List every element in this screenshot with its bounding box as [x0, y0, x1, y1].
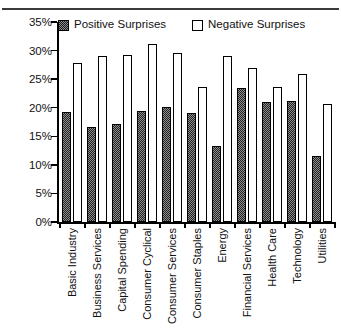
- x-axis-category-label: Basic Industry: [66, 228, 77, 297]
- y-axis-tick: [51, 21, 57, 23]
- bar-positive-surprises: [62, 112, 71, 222]
- x-axis-category-label: Utilities: [316, 228, 327, 263]
- bar-group: [259, 22, 284, 222]
- y-axis-label: 25%: [29, 73, 52, 85]
- bar-positive-surprises: [87, 127, 96, 222]
- x-axis-label-cell: Capital Spending: [109, 228, 134, 328]
- bar-negative-surprises: [73, 63, 82, 222]
- bar-group: [309, 22, 334, 222]
- y-axis-label: 10%: [29, 159, 52, 171]
- bar-group: [184, 22, 209, 222]
- bar-positive-surprises: [112, 124, 121, 222]
- y-axis-label: 5%: [35, 187, 52, 199]
- x-axis-category-labels: Basic IndustryBusiness ServicesCapital S…: [59, 228, 334, 328]
- bar-group: [284, 22, 309, 222]
- bar-negative-surprises: [298, 74, 307, 222]
- x-axis-label-cell: Utilities: [309, 228, 334, 328]
- bar-positive-surprises: [312, 156, 321, 222]
- x-axis-label-cell: Consumer Services: [159, 228, 184, 328]
- x-axis-label-cell: Health Care: [259, 228, 284, 328]
- bar-groups: [59, 22, 334, 222]
- bar-negative-surprises: [123, 55, 132, 222]
- x-axis-category-label: Technology: [291, 228, 302, 284]
- bar-group: [159, 22, 184, 222]
- x-axis-label-cell: Consumer Staples: [184, 228, 209, 328]
- bar-negative-surprises: [173, 53, 182, 222]
- x-axis-category-label: Capital Spending: [116, 228, 127, 312]
- y-axis-label: 20%: [29, 102, 52, 114]
- x-axis-category-label: Consumer Cyclical: [141, 228, 152, 320]
- x-axis-label-cell: Business Services: [84, 228, 109, 328]
- x-axis-category-label: Consumer Staples: [191, 228, 202, 319]
- y-axis-tick: [51, 221, 57, 223]
- x-axis-label-cell: Basic Industry: [59, 228, 84, 328]
- y-axis-label: 35%: [29, 16, 52, 28]
- plot-area: [57, 22, 334, 222]
- x-axis-label-cell: Technology: [284, 228, 309, 328]
- bar-positive-surprises: [212, 146, 221, 222]
- y-axis-label: 0%: [35, 216, 52, 228]
- x-axis-label-cell: Consumer Cyclical: [134, 228, 159, 328]
- y-axis-label: 15%: [29, 130, 52, 142]
- bar-negative-surprises: [98, 56, 107, 222]
- x-axis-tick: [334, 222, 336, 228]
- bar-negative-surprises: [273, 87, 282, 222]
- bar-positive-surprises: [187, 113, 196, 222]
- bar-positive-surprises: [237, 88, 246, 222]
- bar-positive-surprises: [162, 107, 171, 222]
- y-axis-tick: [51, 50, 57, 52]
- bar-negative-surprises: [323, 104, 332, 222]
- y-axis-tick: [51, 78, 57, 80]
- bar-group: [134, 22, 159, 222]
- y-axis-label: 30%: [29, 45, 52, 57]
- bar-negative-surprises: [148, 44, 157, 222]
- bar-group: [234, 22, 259, 222]
- bar-positive-surprises: [262, 102, 271, 222]
- bar-group: [109, 22, 134, 222]
- y-axis-tick-labels: 35%30%25%20%15%10%5%0%: [0, 22, 52, 222]
- x-axis-label-cell: Energy: [209, 228, 234, 328]
- y-axis-tick: [51, 193, 57, 195]
- bar-negative-surprises: [223, 56, 232, 222]
- bar-positive-surprises: [287, 101, 296, 222]
- y-axis-tick: [51, 136, 57, 138]
- y-axis-tick: [51, 107, 57, 109]
- x-axis-category-label: Financial Services: [241, 228, 252, 317]
- bar-group: [84, 22, 109, 222]
- bar-negative-surprises: [248, 68, 257, 222]
- bar-chart-figure: Positive Surprises Negative Surprises 35…: [0, 0, 341, 331]
- top-divider-rule: [2, 8, 339, 10]
- x-axis-category-label: Business Services: [91, 228, 102, 318]
- bar-group: [59, 22, 84, 222]
- x-axis-label-cell: Financial Services: [234, 228, 259, 328]
- x-axis-category-label: Consumer Services: [166, 228, 177, 324]
- y-axis-tick: [51, 164, 57, 166]
- bar-negative-surprises: [198, 87, 207, 222]
- bar-group: [209, 22, 234, 222]
- bar-positive-surprises: [137, 111, 146, 222]
- x-axis-category-label: Energy: [216, 228, 227, 263]
- x-axis-category-label: Health Care: [266, 228, 277, 287]
